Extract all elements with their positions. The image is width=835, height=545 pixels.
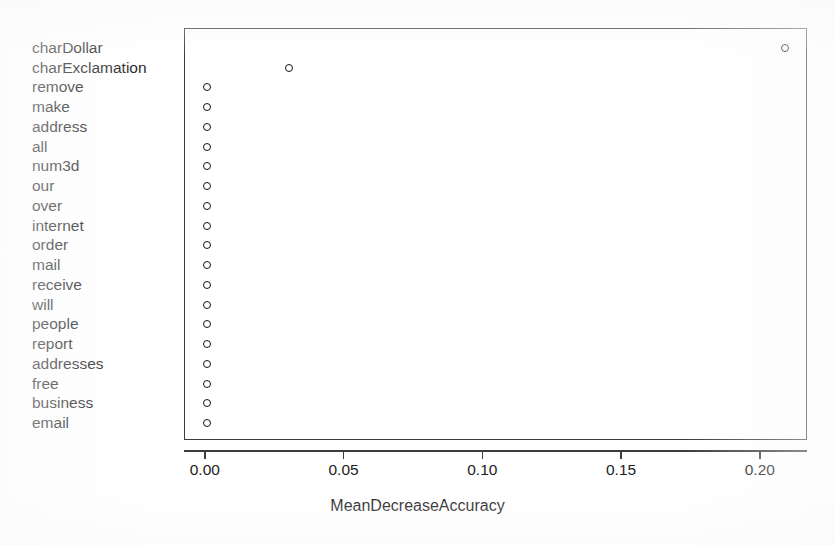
x-axis-tick bbox=[204, 450, 206, 459]
data-points-layer bbox=[184, 28, 807, 440]
data-point bbox=[203, 222, 211, 230]
x-axis-tick bbox=[759, 450, 761, 459]
y-axis-label: charExclamation bbox=[32, 60, 147, 76]
data-point bbox=[203, 399, 211, 407]
y-axis-label: all bbox=[32, 139, 48, 155]
data-point bbox=[203, 162, 211, 170]
data-point bbox=[203, 340, 211, 348]
y-axis-label: make bbox=[32, 99, 70, 115]
x-axis-tick bbox=[620, 450, 622, 459]
x-axis-tick bbox=[343, 450, 345, 459]
x-axis-line bbox=[184, 450, 807, 452]
data-point bbox=[203, 281, 211, 289]
data-point bbox=[203, 320, 211, 328]
data-point bbox=[203, 301, 211, 309]
y-axis-label: receive bbox=[32, 277, 82, 293]
x-axis: 0.000.050.100.150.20 bbox=[0, 440, 835, 500]
y-axis-label: remove bbox=[32, 80, 84, 96]
data-point bbox=[203, 261, 211, 269]
data-point bbox=[203, 83, 211, 91]
data-point bbox=[285, 64, 293, 72]
data-point bbox=[203, 419, 211, 427]
x-axis-tick-label: 0.20 bbox=[745, 462, 775, 478]
y-axis-label: internet bbox=[32, 218, 84, 234]
y-axis-label: num3d bbox=[32, 159, 79, 175]
y-axis-label: free bbox=[32, 376, 59, 392]
y-axis-label: our bbox=[32, 178, 54, 194]
data-point bbox=[203, 360, 211, 368]
y-axis-label: charDollar bbox=[32, 40, 103, 56]
plot-title-cropped bbox=[0, 0, 835, 3]
y-axis-label: email bbox=[32, 415, 69, 431]
y-axis-label: people bbox=[32, 317, 79, 333]
x-axis-tick-label: 0.15 bbox=[606, 462, 636, 478]
x-axis-title: MeanDecreaseAccuracy bbox=[0, 497, 835, 515]
data-point bbox=[203, 241, 211, 249]
data-point bbox=[203, 182, 211, 190]
y-axis-label: over bbox=[32, 198, 62, 214]
y-axis-label: mail bbox=[32, 257, 60, 273]
variable-importance-plot: charDollarcharExclamationremovemakeaddre… bbox=[0, 0, 835, 545]
y-axis-label: business bbox=[32, 396, 93, 412]
data-point bbox=[203, 143, 211, 151]
y-axis-label: report bbox=[32, 336, 73, 352]
data-point bbox=[203, 123, 211, 131]
data-point bbox=[203, 380, 211, 388]
y-axis-label: order bbox=[32, 238, 68, 254]
x-axis-tick bbox=[482, 450, 484, 459]
y-axis-label: address bbox=[32, 119, 87, 135]
x-axis-tick-label: 0.00 bbox=[190, 462, 220, 478]
data-point bbox=[203, 103, 211, 111]
data-point bbox=[781, 44, 789, 52]
y-axis-label: will bbox=[32, 297, 54, 313]
x-axis-tick-label: 0.10 bbox=[467, 462, 497, 478]
y-axis-category-labels: charDollarcharExclamationremovemakeaddre… bbox=[0, 28, 184, 440]
x-axis-tick-label: 0.05 bbox=[328, 462, 358, 478]
data-point bbox=[203, 202, 211, 210]
y-axis-label: addresses bbox=[32, 356, 104, 372]
